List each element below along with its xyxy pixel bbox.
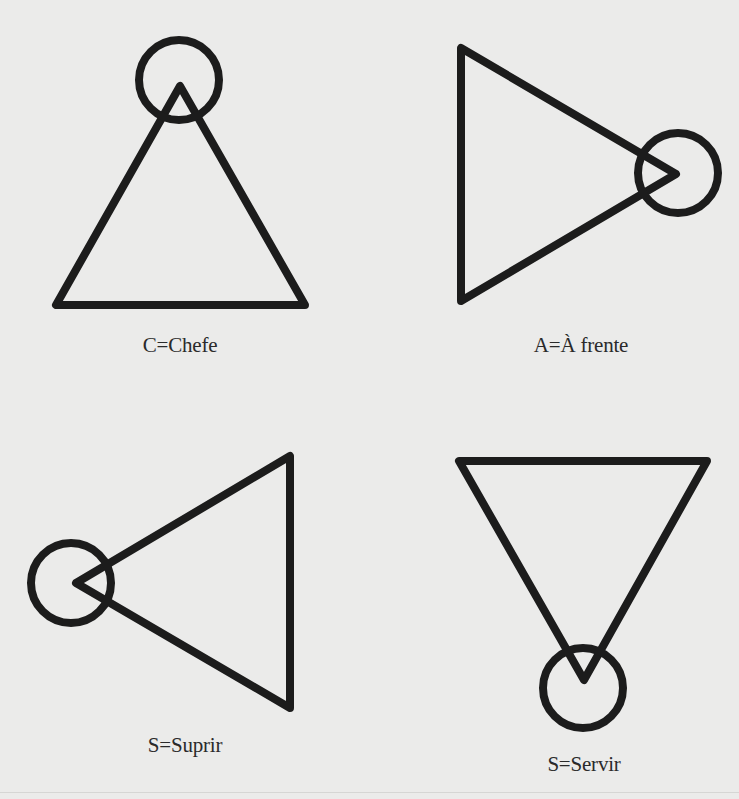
circle-marker-icon <box>31 543 111 623</box>
triangle-apex-right-icon <box>461 48 676 301</box>
diagram-canvas <box>0 0 739 799</box>
label-servir: S=Servir <box>547 752 620 777</box>
circle-marker-icon <box>139 40 219 120</box>
label-chefe: C=Chefe <box>143 333 218 358</box>
label-suprir: S=Suprir <box>148 733 222 758</box>
figure-a-frente <box>461 48 718 301</box>
figure-chefe <box>56 40 305 305</box>
circle-marker-icon <box>543 648 623 728</box>
label-a-frente: A=À frente <box>534 333 628 358</box>
figure-suprir <box>31 456 290 708</box>
figure-servir <box>459 461 707 728</box>
page-edge-divider <box>0 792 739 793</box>
